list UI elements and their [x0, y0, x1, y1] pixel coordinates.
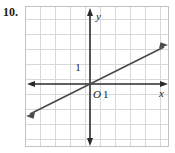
plot-background [25, 6, 169, 147]
coordinate-grid: y x 1 O 1 [25, 6, 169, 147]
x-axis-tick-label-1: 1 [103, 88, 109, 100]
origin-label: O [93, 88, 101, 100]
x-axis-label: x [158, 87, 164, 99]
graph-svg: y x 1 O 1 [25, 6, 169, 147]
y-axis-tick-label-1: 1 [75, 61, 81, 73]
graph-figure: 10. [0, 0, 175, 153]
problem-number: 10. [3, 5, 18, 19]
y-axis-label: y [95, 10, 101, 22]
